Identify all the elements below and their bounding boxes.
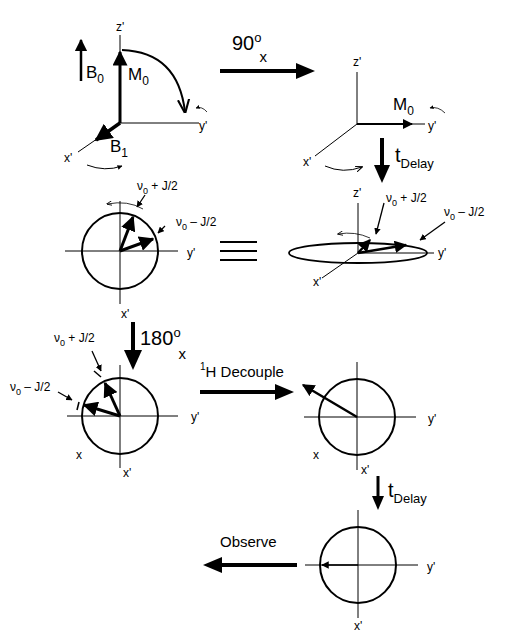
x-label: x: [76, 448, 82, 462]
y-axis-label: y': [427, 560, 435, 574]
pulse-arrow-icon: [296, 63, 315, 79]
decouple-arrow-icon: [275, 384, 294, 400]
panel-precession-top-view: y' x' ν0 + J/2 ν0 – J/2: [65, 179, 217, 321]
panel-after-180: y' x' x ν0 + J/2 ν0 – J/2: [10, 331, 199, 480]
y-axis-label: y': [428, 412, 436, 426]
y-axis-label: y': [187, 246, 195, 260]
pulse-90-label: 90ox: [232, 30, 267, 65]
y-axis-label: y': [428, 119, 436, 133]
rotation-hint-icon: [338, 233, 370, 238]
nu-minus-label: ν0 – J/2: [444, 205, 485, 222]
delay-arrow-icon: [372, 496, 384, 510]
delay-step-1: tDelay: [374, 138, 434, 183]
m0-label: M0: [393, 95, 414, 118]
panel-precession-perspective: z' y' x' ν0 + J/2 ν0 – J/2: [289, 186, 485, 289]
observe-step: Observe: [203, 533, 297, 573]
rotation-hint-icon: [325, 166, 362, 170]
z-axis-label: z': [353, 186, 361, 200]
x-label: x: [313, 448, 319, 462]
t-delay-label: tDelay: [388, 479, 427, 506]
nu-plus-label: ν0 + J/2: [54, 331, 95, 348]
x-axis-label: x': [313, 275, 321, 289]
nu-plus-label: ν0 + J/2: [386, 191, 427, 208]
y-axis-label: y': [438, 246, 446, 260]
nu-minus-label: ν0 – J/2: [176, 215, 217, 232]
y-axis-label: y': [191, 410, 199, 424]
delay-step-2: tDelay: [372, 476, 427, 510]
x-axis: [315, 124, 357, 156]
nu-minus-label: ν0 – J/2: [10, 380, 51, 397]
x-axis-label: x': [123, 466, 131, 480]
equivalence-sign: [220, 242, 257, 260]
delay-arrow-icon: [374, 165, 390, 183]
rotation-hint-icon: [87, 165, 122, 169]
panel-observe: y' x': [305, 510, 435, 633]
observe-label: Observe: [220, 533, 277, 550]
pulse-180-label: 180ox: [140, 325, 187, 362]
x-axis-label: x': [303, 155, 311, 169]
panel-after-90: z' y' M0 x': [303, 55, 445, 170]
x-axis-label: x': [361, 463, 369, 477]
pulse-arrow-icon: [124, 350, 142, 370]
x-axis-label: x': [354, 619, 362, 633]
b0-label: B0: [86, 63, 104, 86]
m0-label: M0: [128, 65, 149, 88]
pulse-180x: 180ox: [124, 322, 187, 370]
nu-plus-label: ν0 + J/2: [137, 179, 178, 196]
rotation-hint-icon: [196, 108, 207, 113]
panel-decoupled: y' x x': [303, 362, 436, 477]
decouple-label: 1H Decouple: [200, 361, 284, 380]
b1-label: B1: [110, 137, 128, 160]
observe-arrow-icon: [203, 557, 222, 573]
t-delay-label: tDelay: [395, 144, 434, 171]
x-axis-label: x': [64, 151, 72, 165]
y-axis-label: y': [199, 119, 207, 133]
decouple-step: 1H Decouple: [200, 361, 294, 400]
rotation-hint-icon: [430, 108, 445, 113]
z-axis-label: z': [353, 55, 361, 69]
pulse-90x: 90ox: [220, 30, 315, 79]
z-axis-label: z': [116, 20, 124, 34]
x-axis-label: x': [121, 307, 129, 321]
panel-equilibrium: B0 z' y' x' M0 B1: [64, 20, 207, 169]
inept-refocusing-diagram: B0 z' y' x' M0 B1 90ox z' y' M0 x': [0, 0, 505, 633]
